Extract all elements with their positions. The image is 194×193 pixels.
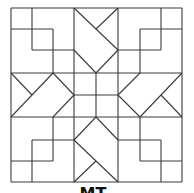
caption-clipped: MT xyxy=(0,186,194,193)
pattern-line-ml-d3 xyxy=(53,73,74,95)
pattern-line-ml-d4 xyxy=(53,95,74,117)
pattern-line-bm-d1 xyxy=(74,117,96,140)
pattern-line-mr-d2 xyxy=(118,95,140,117)
pattern-line-bm-diag-short xyxy=(74,161,96,182)
caption-text: MT xyxy=(80,186,107,193)
pattern-line-tm-v-right xyxy=(96,50,118,73)
pattern-line-ml-d1 xyxy=(11,73,32,95)
pattern-line-tm-diag-short xyxy=(96,8,118,29)
quilt-block-diagram xyxy=(0,0,194,193)
pattern-line-bm-d2 xyxy=(96,117,118,140)
pattern-line-tm-v-left xyxy=(74,50,96,73)
pattern-line-mr-d4 xyxy=(161,95,182,117)
pattern-line-mr-d1 xyxy=(118,73,140,95)
